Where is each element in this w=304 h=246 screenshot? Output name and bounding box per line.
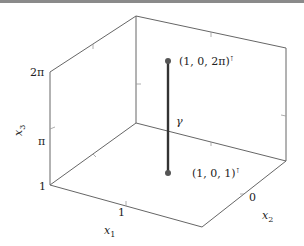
x3-tick-pi: π [38,135,45,148]
curve-label: γ [176,115,183,128]
end-point-label: (1, 0, 2π)⊺ [179,55,234,68]
x3-tick-2pi: 2π [30,66,44,79]
x1-tick-1: 1 [118,206,125,219]
x3-tick-1: 1 [39,180,46,193]
x3-axis-label: x3 [12,125,27,136]
svg-text:x3: x3 [12,125,27,136]
start-point-label: (1, 0, 1)⊺ [192,167,240,180]
endpoint-bottom [165,170,171,176]
x2-tick-0: 0 [249,191,256,204]
x1-axis-label: x1 [104,224,115,239]
endpoint-top [165,58,171,64]
plot-3d: (1, 0, 2π)⊺ (1, 0, 1)⊺ γ 2π π 1 1 0 x1 x… [0,0,304,246]
x2-axis-label: x2 [262,209,273,224]
